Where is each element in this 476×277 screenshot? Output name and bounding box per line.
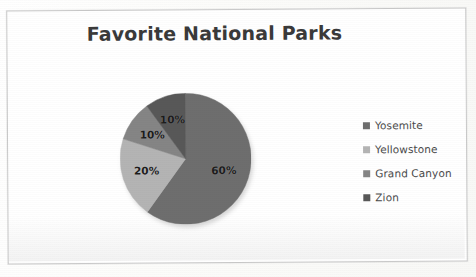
slice-label-grand-canyon: 10%	[140, 128, 165, 140]
legend-item-label: Grand Canyon	[375, 167, 452, 179]
legend-item-yellowstone[interactable]: Yellowstone	[363, 137, 452, 161]
legend-item-zion[interactable]: Zion	[363, 185, 452, 209]
chart-legend: Yosemite Yellowstone Grand Canyon Zion	[363, 113, 452, 209]
chart-title: Favorite National Parks	[59, 21, 369, 45]
legend-item-label: Yellowstone	[375, 143, 438, 155]
pie-slices	[120, 93, 252, 225]
legend-item-label: Zion	[375, 191, 399, 203]
slice-label-yellowstone: 20%	[134, 164, 159, 176]
legend-item-grand-canyon[interactable]: Grand Canyon	[363, 161, 452, 185]
legend-swatch-icon	[363, 194, 370, 201]
pie-chart: 60% 20% 10% 10%	[120, 93, 252, 225]
legend-item-label: Yosemite	[375, 119, 423, 131]
legend-swatch-icon	[363, 146, 370, 153]
slice-label-yosemite: 60%	[211, 164, 236, 176]
pie-svg	[120, 93, 252, 225]
chart-content: Favorite National Parks 60% 20% 10% 10% …	[0, 0, 476, 277]
legend-swatch-icon	[363, 122, 370, 129]
legend-item-yosemite[interactable]: Yosemite	[363, 113, 452, 137]
chart-screenshot: Favorite National Parks 60% 20% 10% 10% …	[0, 0, 476, 277]
legend-swatch-icon	[363, 170, 370, 177]
slice-label-zion: 10%	[160, 113, 185, 125]
